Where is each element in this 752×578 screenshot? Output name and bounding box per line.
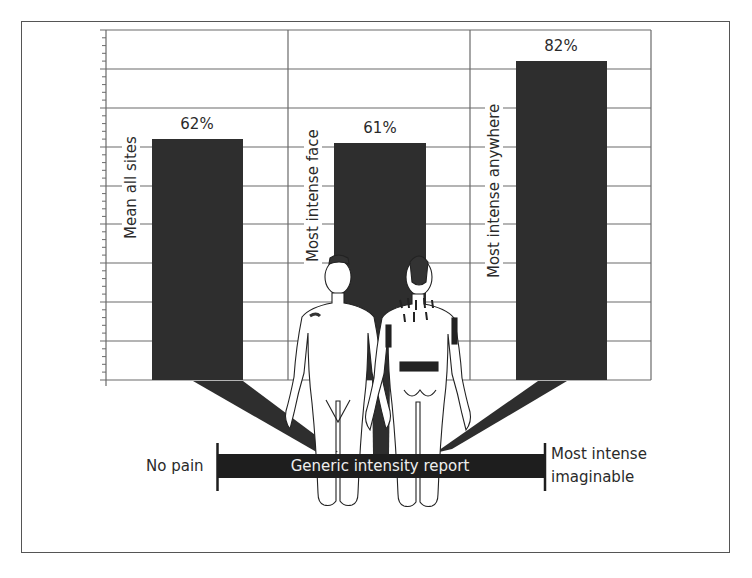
bar3-value-label: 82%: [544, 37, 577, 55]
bar2-category-label: Most intense face: [304, 126, 322, 265]
bar1-category-label: Mean all sites: [122, 133, 140, 242]
scale-max-label-line1: Most intense: [551, 444, 647, 464]
bar2-value-label: 61%: [363, 119, 396, 137]
scale-min-label: No pain: [146, 456, 204, 476]
bar1-value-label: 62%: [180, 115, 213, 133]
chart-canvas: [0, 0, 752, 578]
bar-mean-all-sites: [152, 139, 243, 380]
funnel-right: [435, 381, 567, 453]
bar-most-intense-anywhere: [516, 61, 607, 380]
scale-bar-label: Generic intensity report: [291, 457, 470, 475]
bar3-category-label: Most intense anywhere: [485, 101, 503, 281]
scale-max-label-line2: imaginable: [551, 467, 634, 487]
